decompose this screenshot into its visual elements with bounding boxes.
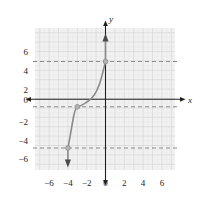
x-axis-label: x [187, 95, 192, 105]
x-tick-label: −6 [44, 178, 54, 188]
marked-point [75, 104, 80, 109]
y-tick-label: −4 [18, 136, 28, 146]
marked-point [66, 146, 71, 151]
graph-figure: y x 6 4 2 0 −2 −4 −6 −6 −4 −2 0 2 4 6 [0, 0, 200, 205]
y-tick-label: 4 [24, 66, 29, 76]
x-tick-label: −2 [82, 178, 92, 188]
y-tick-label: 0 [24, 95, 29, 105]
marked-point [103, 59, 108, 64]
y-tick-label: 2 [24, 85, 29, 95]
y-tick-label: 6 [24, 47, 29, 57]
x-tick-label: 2 [122, 178, 127, 188]
y-axis-label: y [108, 14, 113, 24]
x-tick-label: 4 [141, 178, 146, 188]
y-tick-label: −2 [18, 117, 28, 127]
x-tick-label: 0 [103, 178, 108, 188]
x-tick-label: 6 [160, 178, 165, 188]
y-tick-label: −6 [18, 154, 28, 164]
x-tick-label: −4 [63, 178, 73, 188]
